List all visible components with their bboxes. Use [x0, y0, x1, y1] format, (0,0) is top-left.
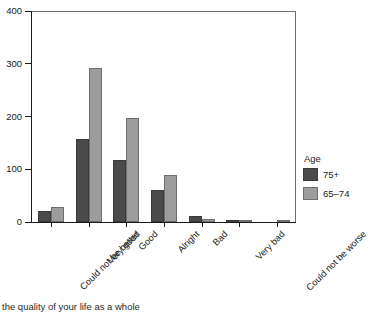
x-axis-label: Could not be worse: [305, 229, 368, 293]
bar[interactable]: [76, 139, 89, 222]
bar-group: [76, 11, 102, 222]
legend-swatch-65-74: [303, 187, 318, 200]
bar[interactable]: [226, 220, 239, 222]
legend-label-75plus: 75+: [323, 169, 339, 180]
bar[interactable]: [239, 220, 252, 222]
bars-layer: [32, 11, 296, 222]
bar-group: [264, 11, 290, 222]
legend-item-65-74[interactable]: 65–74: [303, 187, 365, 200]
legend-item-75plus[interactable]: 75+: [303, 168, 365, 181]
x-axis-tick: [239, 223, 240, 227]
y-axis-tick: [25, 222, 31, 223]
y-axis-label: 0: [0, 217, 22, 227]
legend-title: Age: [304, 153, 365, 164]
bar[interactable]: [189, 216, 202, 222]
x-axis-label: Good: [137, 229, 160, 252]
legend-swatch-75plus: [303, 168, 318, 181]
x-axis-label: Alright: [176, 229, 202, 255]
bar[interactable]: [51, 207, 64, 222]
bar-group: [38, 11, 64, 222]
bar-group: [226, 11, 252, 222]
y-axis-label: 400: [0, 6, 22, 16]
x-axis-tick: [89, 223, 90, 227]
x-axis-tick: [126, 223, 127, 227]
bar[interactable]: [113, 160, 126, 222]
bar[interactable]: [164, 175, 177, 222]
bar[interactable]: [38, 211, 51, 222]
x-axis-label: Very good: [105, 229, 142, 266]
figure-caption: the quality of your life as a whole: [2, 301, 140, 312]
y-axis-tick: [25, 116, 31, 117]
bar[interactable]: [126, 118, 139, 222]
bar[interactable]: [151, 190, 164, 222]
y-axis-label: 300: [0, 59, 22, 69]
x-axis-tick: [202, 223, 203, 227]
y-axis-tick: [25, 63, 31, 64]
y-axis-tick: [25, 11, 31, 12]
bar[interactable]: [89, 68, 102, 222]
x-axis-tick: [51, 223, 52, 227]
x-axis-tick: [277, 223, 278, 227]
x-axis-tick: [164, 223, 165, 227]
bar-group: [189, 11, 215, 222]
y-axis-label: 200: [0, 112, 22, 122]
legend: Age 75+ 65–74: [303, 153, 365, 206]
bar-group: [113, 11, 139, 222]
bar[interactable]: [202, 219, 215, 222]
y-axis-tick: [25, 169, 31, 170]
bar[interactable]: [277, 220, 290, 222]
x-axis-label: Very bad: [254, 229, 287, 262]
legend-label-65-74: 65–74: [323, 188, 349, 199]
x-axis-label: Bad: [211, 229, 230, 248]
bar-group: [151, 11, 177, 222]
y-axis-label: 100: [0, 164, 22, 174]
